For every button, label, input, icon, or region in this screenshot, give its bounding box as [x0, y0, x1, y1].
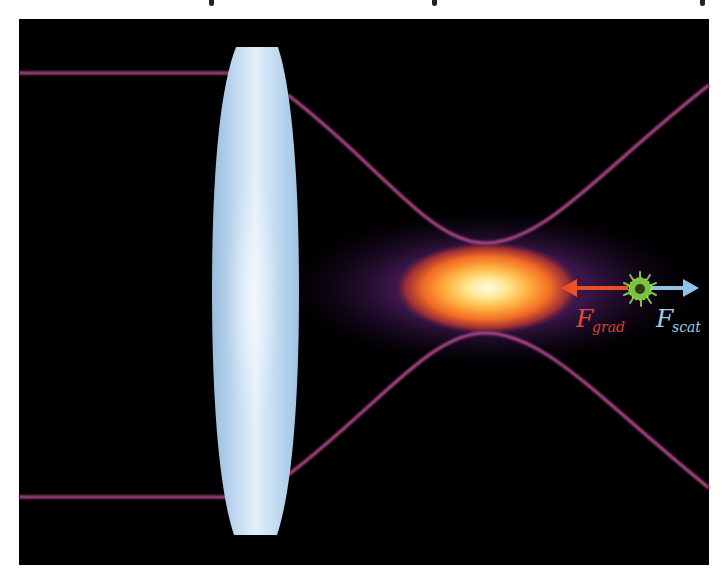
focal-spot-glow [395, 242, 579, 334]
optical-tweezers-figure: F grad F scat [0, 0, 726, 587]
gradient-force-subscript: grad [592, 319, 625, 335]
scattering-force-subscript: scat [672, 319, 701, 335]
clipped-caption-fragment [209, 0, 214, 6]
clipped-caption-fragment [700, 0, 705, 6]
objective-lens [212, 47, 299, 535]
clipped-caption-fragment [432, 0, 437, 6]
diagram-canvas: F grad F scat [0, 0, 726, 587]
